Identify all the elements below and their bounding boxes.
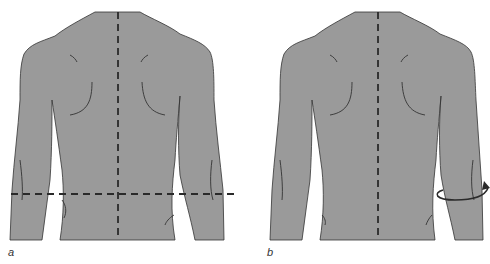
panel-label-a: a	[8, 246, 14, 258]
panel-label-b: b	[267, 246, 273, 258]
back-figure-b	[245, 0, 490, 264]
back-figure-a	[0, 0, 245, 264]
panel-b: b	[245, 0, 490, 264]
panel-a: a	[0, 0, 245, 264]
